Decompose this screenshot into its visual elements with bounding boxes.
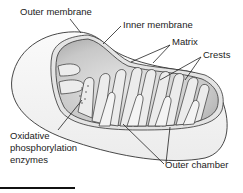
label-oxidative-line2: phosphorylation (10, 143, 77, 154)
label-oxidative-line1: Oxidative (10, 131, 50, 142)
leader-matrix-2 (153, 45, 170, 63)
footer-rule (0, 187, 75, 189)
leader-outer-membrane (70, 19, 81, 33)
label-outer-chamber: Outer chamber (165, 160, 228, 171)
label-inner-membrane: Inner membrane (123, 20, 193, 31)
label-crests: Crests (203, 50, 230, 61)
label-matrix: Matrix (172, 37, 198, 48)
label-oxidative-line3: enzymes (10, 155, 48, 166)
leader-matrix-1 (131, 45, 170, 62)
leader-inner-membrane (103, 26, 121, 44)
label-outer-membrane: Outer membrane (20, 7, 92, 18)
